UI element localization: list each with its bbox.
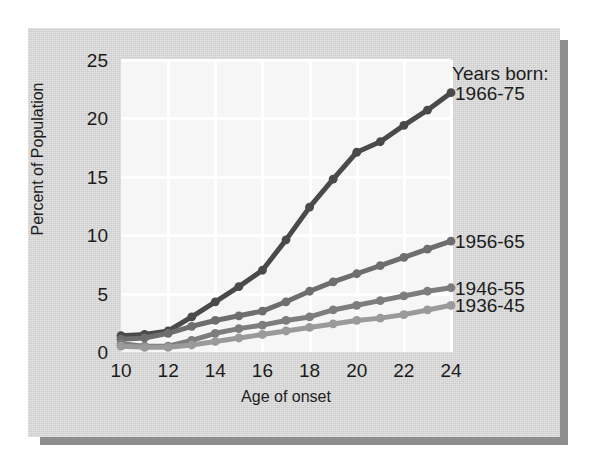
data-point bbox=[376, 314, 385, 323]
data-point bbox=[140, 343, 149, 352]
data-point bbox=[399, 121, 408, 130]
data-point bbox=[305, 313, 314, 322]
data-point bbox=[376, 137, 385, 146]
data-point bbox=[211, 337, 220, 346]
data-point bbox=[234, 324, 243, 333]
y-tick-label: 25 bbox=[62, 51, 108, 70]
data-point bbox=[329, 278, 338, 287]
data-point bbox=[423, 287, 432, 296]
data-point bbox=[352, 301, 361, 310]
data-point bbox=[234, 282, 243, 291]
data-point bbox=[117, 342, 126, 351]
data-point bbox=[187, 341, 196, 350]
x-axis-title: Age of onset bbox=[121, 388, 451, 406]
x-axis-tick-labels: 1012141618202224 bbox=[0, 361, 594, 387]
data-point bbox=[352, 148, 361, 157]
data-point bbox=[376, 261, 385, 270]
y-axis-title: Percent of Population bbox=[29, 59, 47, 259]
data-point bbox=[352, 316, 361, 325]
data-point bbox=[258, 321, 267, 330]
legend-label-1936-45: 1936-45 bbox=[455, 296, 525, 315]
x-tick-label: 12 bbox=[148, 361, 188, 380]
series-layer bbox=[121, 60, 451, 352]
data-point bbox=[187, 322, 196, 331]
data-point bbox=[423, 306, 432, 315]
data-point bbox=[305, 287, 314, 296]
data-point bbox=[282, 316, 291, 325]
data-point bbox=[282, 235, 291, 244]
x-tick-label: 24 bbox=[431, 361, 471, 380]
data-point bbox=[423, 106, 432, 115]
data-point bbox=[258, 330, 267, 339]
x-tick-label: 10 bbox=[101, 361, 141, 380]
data-point bbox=[164, 329, 173, 338]
y-axis-tick-labels: 0510152025 bbox=[62, 0, 108, 464]
y-tick-label: 0 bbox=[62, 343, 108, 362]
data-point bbox=[399, 310, 408, 319]
data-point bbox=[423, 245, 432, 254]
y-tick-label: 15 bbox=[62, 168, 108, 187]
data-point bbox=[211, 316, 220, 325]
x-tick-label: 14 bbox=[195, 361, 235, 380]
legend-heading: Years born: bbox=[452, 64, 548, 83]
x-tick-label: 20 bbox=[337, 361, 377, 380]
data-point bbox=[211, 297, 220, 306]
legend-label-1956-65: 1956-65 bbox=[455, 232, 525, 251]
data-point bbox=[329, 306, 338, 315]
data-point bbox=[399, 253, 408, 262]
legend-label-1966-75: 1966-75 bbox=[455, 84, 525, 103]
y-tick-label: 20 bbox=[62, 109, 108, 128]
x-tick-label: 18 bbox=[290, 361, 330, 380]
data-point bbox=[164, 343, 173, 352]
y-tick-label: 10 bbox=[62, 226, 108, 245]
data-point bbox=[282, 297, 291, 306]
data-point bbox=[352, 269, 361, 278]
data-point bbox=[258, 307, 267, 316]
data-point bbox=[187, 313, 196, 322]
data-point bbox=[399, 292, 408, 301]
data-point bbox=[282, 327, 291, 336]
data-point bbox=[234, 311, 243, 320]
data-point bbox=[376, 296, 385, 305]
data-point bbox=[329, 320, 338, 329]
data-point bbox=[305, 323, 314, 332]
data-point bbox=[305, 203, 314, 212]
y-tick-label: 5 bbox=[62, 285, 108, 304]
data-point bbox=[140, 334, 149, 343]
chart-figure: Percent of Population 0510152025 1012141… bbox=[0, 0, 594, 464]
x-tick-label: 22 bbox=[384, 361, 424, 380]
data-point bbox=[211, 329, 220, 338]
data-point bbox=[234, 334, 243, 343]
x-tick-label: 16 bbox=[242, 361, 282, 380]
series-1936-45 bbox=[117, 301, 456, 352]
plot-area bbox=[121, 60, 451, 352]
data-point bbox=[258, 266, 267, 275]
data-point bbox=[329, 175, 338, 184]
